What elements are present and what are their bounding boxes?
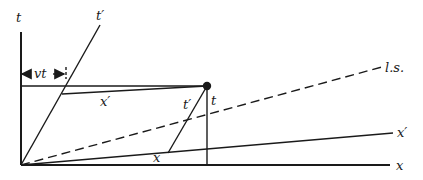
- x-segment-label: x: [153, 150, 161, 165]
- event-point: [203, 82, 211, 90]
- vt-label: vt: [34, 66, 47, 81]
- x-axis-label: x: [396, 158, 404, 173]
- t-axis-label: t: [16, 10, 22, 25]
- spacetime-diagram: t t′ x x′ l.s. vt x′ t′ t x: [0, 0, 423, 180]
- t-prime-segment-label: t′: [183, 97, 191, 112]
- x-prime-axis-label: x′: [397, 125, 407, 140]
- x-prime-parallel: [62, 86, 207, 94]
- light-signal-line: [21, 67, 382, 165]
- x-prime-segment-label: x′: [100, 94, 110, 109]
- t-prime-axis-label: t′: [96, 8, 104, 23]
- t-segment-label: t: [211, 93, 217, 108]
- t-prime-axis: [21, 25, 100, 165]
- light-signal-label: l.s.: [385, 60, 404, 75]
